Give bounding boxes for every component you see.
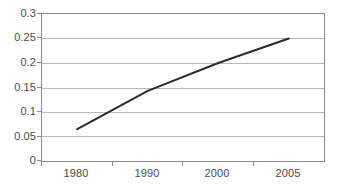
y-axis: 00.050.10.150.20.250.3: [0, 0, 36, 192]
y-tick-label: 0.15: [0, 82, 36, 93]
y-tick-mark: [37, 111, 42, 112]
x-tick-label: 2000: [205, 168, 230, 179]
line-chart: 00.050.10.150.20.250.3 1980199020002005: [0, 0, 338, 192]
y-tick-label: 0.25: [0, 32, 36, 43]
plot-area: [41, 13, 325, 162]
x-tick-mark: [112, 161, 113, 166]
x-tick-label: 2005: [276, 168, 301, 179]
y-tick-mark: [37, 87, 42, 88]
y-tick-mark: [37, 37, 42, 38]
y-tick-label: 0.2: [0, 57, 36, 68]
y-tick-mark: [37, 136, 42, 137]
x-tick-mark: [41, 161, 42, 166]
x-tick-mark: [253, 161, 254, 166]
y-tick-label: 0.05: [0, 131, 36, 142]
y-tick-label: 0: [0, 155, 36, 166]
series-layer: [42, 14, 324, 161]
x-axis: 1980199020002005: [0, 168, 338, 184]
y-tick-mark: [37, 62, 42, 63]
y-tick-label: 0.3: [0, 8, 36, 19]
y-tick-label: 0.1: [0, 106, 36, 117]
series-line-0: [77, 39, 289, 130]
x-tick-label: 1980: [64, 168, 89, 179]
x-tick-mark: [182, 161, 183, 166]
y-tick-mark: [37, 13, 42, 14]
x-tick-label: 1990: [135, 168, 160, 179]
